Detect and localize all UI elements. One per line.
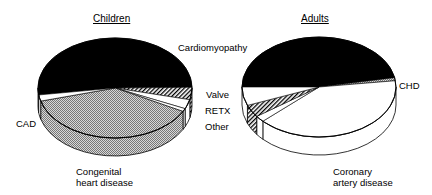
label-retx: RETX (205, 105, 230, 116)
label-coronary-1: Coronary (333, 166, 372, 177)
label-cardiomyopathy: Cardiomyopathy (178, 42, 247, 53)
label-coronary-2: artery disease (333, 177, 393, 188)
adults-pie (242, 37, 396, 155)
label-other: Other (205, 121, 229, 132)
label-valve: Valve (206, 89, 229, 100)
children-title: Children (93, 13, 130, 24)
label-chd: CHD (399, 80, 420, 91)
label-cad: CAD (16, 118, 36, 129)
pie-slice-cardiomyopathy (242, 37, 395, 87)
label-congenital-2: heart disease (76, 177, 133, 188)
adults-title: Adults (301, 13, 329, 24)
pie-slice-cardiomyopathy (38, 38, 192, 95)
label-congenital-1: Congenital (76, 166, 121, 177)
children-pie (38, 38, 192, 156)
